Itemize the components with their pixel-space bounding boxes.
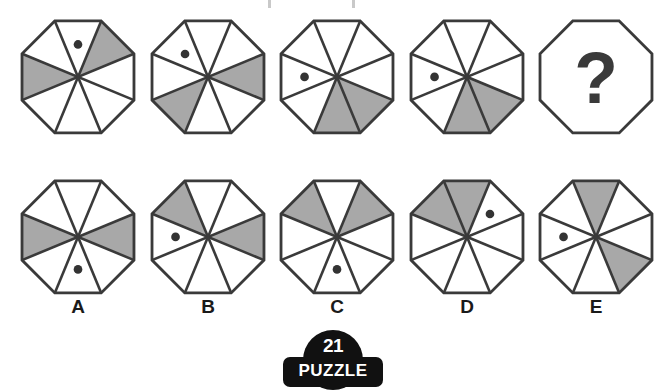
shaded-sector [152,77,208,133]
option-d[interactable] [402,172,532,304]
shaded-sector [208,54,264,100]
option-c-label: C [272,296,402,318]
question-mark: ? [574,38,618,118]
puzzle-word: PUZZLE [283,361,383,381]
puzzle-number: 21 [303,335,363,357]
shaded-sector [573,181,619,237]
footer-logo: 21 PUZZLE [0,330,665,389]
option-b[interactable] [143,172,273,304]
shaded-sector [152,181,208,237]
sequence-figure-1 [13,12,143,144]
option-e-label: E [531,296,661,318]
marker-dot [430,73,439,82]
option-c[interactable] [272,172,402,304]
option-d-label: D [402,296,532,318]
shaded-sector [337,181,393,237]
shaded-sector [208,214,264,260]
sequence-figure-5-unknown: ? [531,12,661,144]
marker-dot [74,265,83,274]
option-a-label: A [13,296,143,318]
marker-dot [74,40,83,49]
shaded-sector [281,181,337,237]
shaded-sector [78,214,134,260]
shaded-sector [22,54,78,100]
puzzle-grid: ? ABCDE [0,0,665,330]
shaded-sector [22,214,78,260]
sequence-figure-3 [272,12,402,144]
marker-dot [171,233,180,242]
marker-dot [300,73,309,82]
sequence-figure-2 [143,12,273,144]
option-a[interactable] [13,172,143,304]
shaded-sector [78,21,134,77]
option-b-label: B [143,296,273,318]
marker-dot [486,210,495,219]
marker-dot [333,265,342,274]
shaded-sector [596,237,652,293]
sequence-figure-4 [402,12,532,144]
puzzle-logo: 21 PUZZLE [283,330,383,389]
option-e[interactable] [531,172,661,304]
marker-dot [181,50,190,59]
marker-dot [559,233,568,242]
